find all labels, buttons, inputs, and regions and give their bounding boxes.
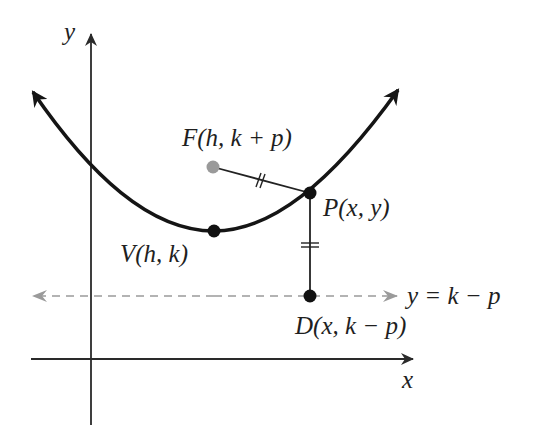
vertex-point	[208, 225, 221, 238]
segment-fp	[213, 167, 310, 193]
parabola-curve	[33, 92, 214, 231]
y-axis-label: y	[61, 18, 76, 45]
vertex-label: V(h, k)	[120, 240, 188, 268]
parabola-diagram: y x F(h, k + p) P(x, y) V(h, k) D(x, k −…	[0, 0, 557, 436]
focus-point	[207, 161, 220, 174]
point-p-label: P(x, y)	[322, 194, 390, 222]
x-axis-label: x	[401, 366, 413, 393]
directrix-point-label: D(x, k − p)	[294, 312, 406, 340]
directrix-point-d	[304, 290, 317, 303]
point-p	[304, 187, 317, 200]
focus-label: F(h, k + p)	[181, 124, 292, 152]
directrix-equation-label: y = k − p	[404, 282, 500, 309]
